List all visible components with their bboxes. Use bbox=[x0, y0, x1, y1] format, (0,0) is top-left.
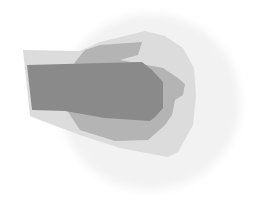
region-diagram bbox=[0, 0, 254, 197]
diagram-canvas bbox=[0, 0, 254, 197]
